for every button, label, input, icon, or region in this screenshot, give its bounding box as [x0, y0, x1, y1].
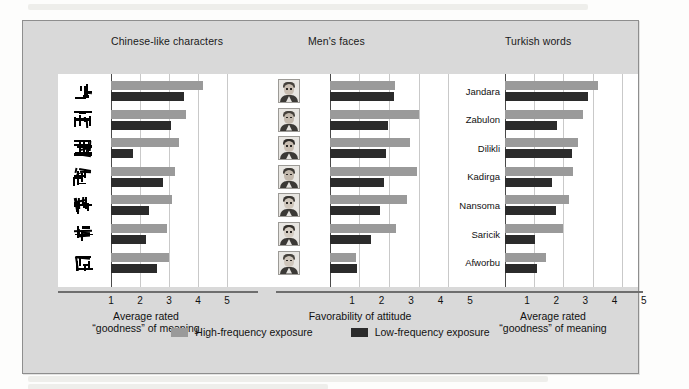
axis-caption-faces-line1: Favorability of attitude: [275, 310, 445, 322]
tick-label-3: 3: [166, 295, 172, 306]
axis-line-faces: [276, 291, 466, 293]
tick-label-1: 1: [349, 295, 355, 306]
category-item: Afworbu: [463, 251, 505, 275]
bar-low-dilikli: [505, 149, 572, 158]
bar-low-face-1: [330, 92, 394, 101]
mans-face-photo: [278, 108, 300, 132]
bar-low-face-3: [330, 149, 386, 158]
legend-swatch-low-frequency: [351, 328, 368, 337]
bar-low-glyph-4: [111, 178, 163, 187]
gridline-5: [448, 74, 449, 287]
mans-face-photo: [278, 165, 300, 189]
category-item: Nansoma: [463, 193, 505, 217]
panel-title-turkish: Turkish words: [505, 35, 571, 47]
bar-high-face-3: [330, 138, 410, 147]
bar-high-glyph-5: [111, 195, 172, 204]
panel-title-chinese: Chinese-like characters: [111, 35, 223, 47]
category-item: [58, 222, 108, 246]
panel-title-faces: Men's faces: [308, 35, 365, 47]
bar-low-jandara: [505, 92, 588, 101]
tick-label-5: 5: [224, 295, 230, 306]
category-item: [58, 136, 108, 160]
bar-high-saricik: [505, 224, 563, 233]
tick-label-1: 1: [108, 295, 114, 306]
category-label-jandara: Jandara: [466, 86, 505, 97]
gridline-4: [198, 74, 199, 287]
category-item: [254, 165, 324, 189]
legend: High-frequency exposure Low-frequency ex…: [23, 326, 638, 338]
category-item: [254, 193, 324, 217]
mans-face-photo: [278, 251, 300, 275]
axis-caption-chinese-line1: Average rated: [66, 310, 226, 322]
chinese-like-character-glyph: [72, 138, 94, 158]
stimuli-gutter-chinese: [58, 74, 108, 287]
tick-label-3: 3: [408, 295, 414, 306]
category-label-nansoma: Nansoma: [459, 200, 505, 211]
chinese-like-character-glyph: [72, 195, 94, 215]
bar-low-face-5: [330, 206, 380, 215]
gridline-3: [389, 74, 390, 287]
bar-high-jandara: [505, 81, 598, 90]
category-item: Kadirga: [463, 165, 505, 189]
category-item: [58, 193, 108, 217]
bar-low-glyph-1: [111, 92, 184, 101]
category-label-zabulon: Zabulon: [466, 114, 505, 125]
category-label-kadirga: Kadirga: [467, 171, 505, 182]
category-item: Zabulon: [463, 108, 505, 132]
tick-label-4: 4: [612, 295, 618, 306]
stimuli-gutter-turkish: JandaraZabulonDilikliKadirgaNansomaSaric…: [463, 74, 505, 287]
tick-label-1: 1: [524, 295, 530, 306]
bar-high-nansoma: [505, 195, 569, 204]
gridline-4: [593, 74, 594, 287]
bar-low-face-2: [330, 121, 388, 130]
bar-low-face-6: [330, 235, 371, 244]
chinese-like-character-glyph: [72, 224, 94, 244]
category-label-saricik: Saricik: [471, 229, 505, 240]
bar-high-kadirga: [505, 167, 573, 176]
tick-label-3: 3: [583, 295, 589, 306]
bar-high-face-1: [330, 81, 395, 90]
bar-high-glyph-6: [111, 224, 167, 233]
bar-high-face-7: [330, 253, 356, 262]
bar-low-glyph-2: [111, 121, 171, 130]
bar-high-afworbu: [505, 253, 546, 262]
legend-item-low-frequency: Low-frequency exposure: [351, 326, 490, 338]
category-item: [58, 251, 108, 275]
stimuli-gutter-faces: [254, 74, 324, 287]
chinese-like-character-glyph: [72, 253, 94, 273]
bar-low-glyph-5: [111, 206, 149, 215]
tick-label-4: 4: [438, 295, 444, 306]
bar-high-glyph-3: [111, 138, 179, 147]
legend-swatch-high-frequency: [171, 328, 188, 337]
gridline-3: [169, 74, 170, 287]
category-item: [58, 108, 108, 132]
bar-low-saricik: [505, 235, 535, 244]
bar-low-nansoma: [505, 206, 556, 215]
category-item: [254, 251, 324, 275]
category-item: [58, 165, 108, 189]
figure-frame: Chinese-like characters Men's faces Turk…: [22, 20, 639, 374]
legend-item-high-frequency: High-frequency exposure: [171, 326, 312, 338]
category-item: [254, 136, 324, 160]
chinese-like-character-glyph: [72, 81, 94, 101]
axis-caption-turkish-line1: Average rated: [471, 310, 636, 322]
bar-high-face-2: [330, 110, 419, 119]
bar-high-glyph-2: [111, 110, 186, 119]
legend-label-low-frequency: Low-frequency exposure: [375, 326, 490, 338]
tick-label-5: 5: [641, 295, 647, 306]
chinese-like-character-glyph: [72, 167, 94, 187]
bar-low-glyph-6: [111, 235, 146, 244]
tick-label-4: 4: [195, 295, 201, 306]
bar-low-glyph-3: [111, 149, 133, 158]
category-item: Saricik: [463, 222, 505, 246]
tick-label-2: 2: [553, 295, 559, 306]
legend-label-high-frequency: High-frequency exposure: [195, 326, 312, 338]
axis-line-chinese: [58, 291, 258, 293]
bar-high-zabulon: [505, 110, 583, 119]
gridline-5: [622, 74, 623, 287]
bar-low-afworbu: [505, 264, 537, 273]
axis-caption-faces: Favorability of attitude: [275, 310, 445, 322]
mans-face-photo: [278, 193, 300, 217]
tick-label-5: 5: [467, 295, 473, 306]
bar-high-glyph-1: [111, 81, 203, 90]
